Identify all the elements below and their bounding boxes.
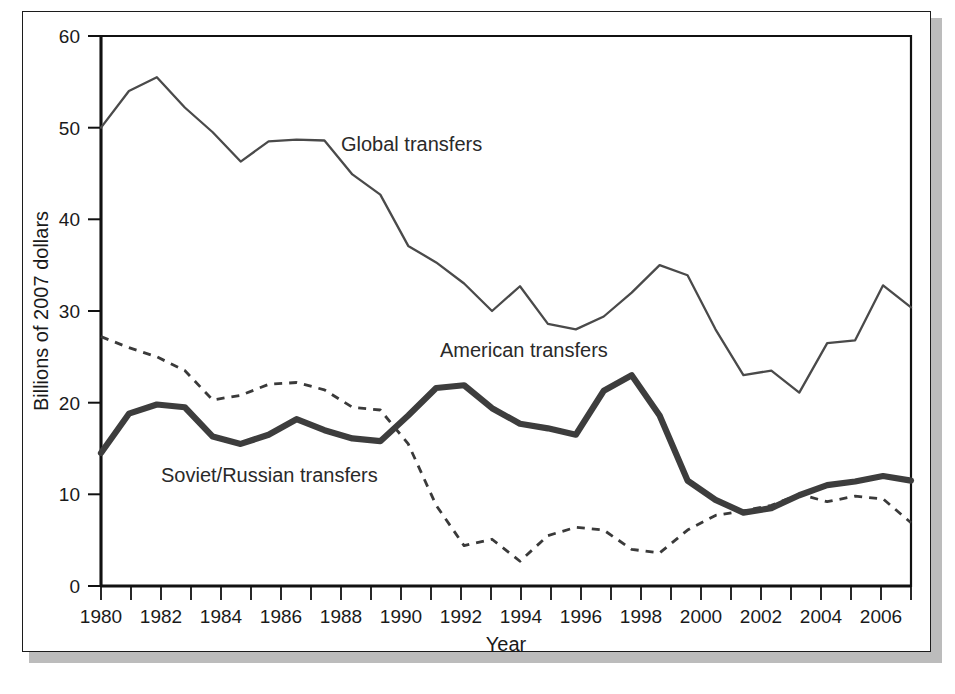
- plot-frame: [101, 36, 911, 586]
- x-tick-1992: 1992: [440, 606, 482, 627]
- x-tick-1980: 1980: [80, 606, 122, 627]
- x-tick-2004: 2004: [800, 606, 843, 627]
- y-tick-0: 0: [69, 576, 80, 597]
- x-tick-1994: 1994: [500, 606, 543, 627]
- x-tick-2002: 2002: [740, 606, 782, 627]
- y-tick-10: 10: [59, 484, 80, 505]
- y-tick-30: 30: [59, 301, 80, 322]
- y-axis-ticks: [88, 36, 101, 586]
- x-tick-2000: 2000: [680, 606, 722, 627]
- series-label-american-transfers: American transfers: [440, 339, 608, 361]
- x-axis-tick-labels: 1980 1982 1984 1986 1988 1990 1992 1994 …: [80, 606, 902, 627]
- y-tick-60: 60: [59, 26, 80, 47]
- plot-border: [101, 36, 911, 586]
- x-tick-1984: 1984: [200, 606, 243, 627]
- series-line-soviet-transfers: [101, 337, 911, 562]
- y-axis-tick-labels: 60 50 40 30 20 10 0: [59, 26, 80, 597]
- x-tick-1990: 1990: [380, 606, 422, 627]
- y-tick-40: 40: [59, 209, 80, 230]
- x-tick-2006: 2006: [860, 606, 902, 627]
- y-tick-20: 20: [59, 393, 80, 414]
- x-axis-ticks: [101, 586, 911, 600]
- y-tick-50: 50: [59, 118, 80, 139]
- series-line-american-transfers: [101, 375, 911, 513]
- x-tick-1986: 1986: [260, 606, 302, 627]
- x-tick-1988: 1988: [320, 606, 362, 627]
- x-tick-1998: 1998: [620, 606, 662, 627]
- series-label-global-transfers: Global transfers: [341, 133, 482, 155]
- y-axis-title: Billions of 2007 dollars: [30, 211, 52, 411]
- x-tick-1996: 1996: [560, 606, 602, 627]
- series-label-soviet-transfers: Soviet/Russian transfers: [161, 464, 378, 486]
- x-tick-1982: 1982: [140, 606, 182, 627]
- line-chart: 60 50 40 30 20 10 0 Billions of 2007 dol…: [22, 11, 931, 652]
- x-axis-title: Year: [486, 633, 527, 652]
